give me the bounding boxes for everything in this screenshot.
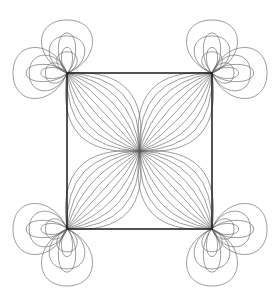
figure-canvas (0, 0, 279, 306)
rosette-diagram (0, 0, 279, 306)
